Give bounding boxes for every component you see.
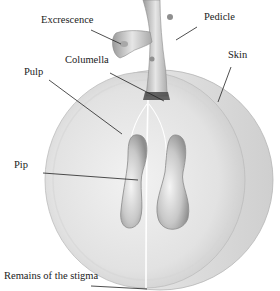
- grape-cross-section-diagram: [0, 0, 280, 291]
- label-pip: Pip: [14, 160, 28, 171]
- label-columella: Columella: [65, 55, 109, 66]
- label-excrescence: Excrescence: [41, 15, 93, 26]
- label-pulp: Pulp: [24, 67, 43, 78]
- excrescence: [113, 31, 152, 58]
- pulp: [45, 72, 245, 288]
- label-pedicle: Pedicle: [204, 12, 235, 23]
- label-remains-of-the-stigma: Remains of the stigma: [4, 271, 98, 282]
- leader-pedicle: [176, 27, 197, 40]
- label-skin: Skin: [228, 50, 247, 61]
